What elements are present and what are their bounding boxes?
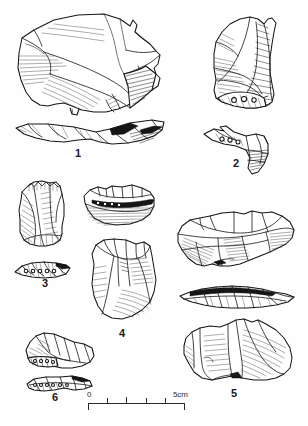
scale-bar-end-tick-left bbox=[88, 403, 89, 410]
artifact-6-plan-view bbox=[22, 330, 98, 374]
artifact-2-plan-view bbox=[200, 14, 290, 116]
artifact-label-1: 1 bbox=[70, 147, 86, 159]
artifact-label-2: 2 bbox=[228, 157, 244, 169]
scale-bar-start-label: 0 bbox=[87, 390, 91, 399]
artifact-3-plan-view bbox=[14, 178, 72, 258]
artifact-1-plan-view bbox=[8, 8, 168, 120]
artifact-plate: 1 bbox=[0, 0, 308, 426]
artifact-5-section-view bbox=[176, 280, 298, 312]
scale-bar-tick-2 bbox=[126, 397, 127, 404]
scale-bar-end-label: 5cm bbox=[173, 390, 188, 399]
scale-bar: 0 5cm bbox=[88, 390, 186, 416]
artifact-4-plan-view bbox=[82, 236, 162, 324]
scale-bar-rule bbox=[88, 403, 185, 404]
scale-bar-tick-4 bbox=[165, 398, 166, 403]
artifact-label-5: 5 bbox=[226, 387, 242, 399]
artifact-5-plan-view-lower bbox=[180, 316, 296, 386]
artifact-label-3: 3 bbox=[37, 277, 53, 289]
scale-bar-tick-3 bbox=[146, 398, 147, 403]
artifact-label-6: 6 bbox=[47, 391, 63, 403]
artifact-1-section-view bbox=[12, 118, 168, 152]
scale-bar-end-tick-right bbox=[184, 403, 185, 410]
scale-bar-tick-1 bbox=[107, 398, 108, 403]
artifact-4-section-view bbox=[82, 182, 160, 236]
artifact-label-4: 4 bbox=[114, 327, 130, 339]
artifact-5-plan-view-upper bbox=[174, 208, 298, 278]
artifact-2-section-view bbox=[202, 122, 286, 178]
